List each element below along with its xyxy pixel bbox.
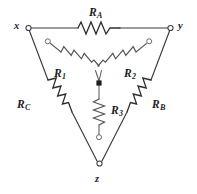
wire-terminal1-to-R1 bbox=[51, 44, 62, 53]
resistor-label-R1-base: R bbox=[54, 67, 62, 79]
resistor-label-R2-sub: 2 bbox=[132, 72, 136, 81]
resistor-label-RA: RA bbox=[89, 7, 102, 20]
center-junction-node bbox=[96, 80, 101, 85]
wire-RC-to-z bbox=[72, 112, 97, 161]
terminal-node-x[interactable] bbox=[26, 25, 31, 30]
resistor-label-R3-base: R bbox=[111, 104, 119, 116]
circuit-schematic-canvas bbox=[0, 0, 197, 194]
resistor-RB-zigzag bbox=[127, 78, 151, 112]
terminal-node-R1-open[interactable] bbox=[45, 39, 50, 44]
resistor-label-RB-base: R bbox=[152, 98, 160, 110]
wye-branch-R3 bbox=[94, 85, 105, 135]
terminal-node-y[interactable] bbox=[168, 25, 173, 30]
resistor-label-RB: RB bbox=[152, 99, 165, 112]
resistor-label-R1-sub: 1 bbox=[62, 72, 66, 81]
resistor-label-R3: R3 bbox=[111, 105, 123, 118]
wire-terminal2-to-R2 bbox=[136, 44, 147, 53]
node-label-z: z bbox=[95, 174, 99, 185]
resistor-label-RC: RC bbox=[17, 99, 30, 112]
terminal-node-R3-open[interactable] bbox=[97, 135, 102, 140]
resistor-RC-zigzag bbox=[48, 78, 72, 112]
wire-R1-to-center bbox=[96, 71, 100, 82]
resistor-label-RA-sub: A bbox=[97, 11, 102, 20]
terminal-node-z[interactable] bbox=[97, 161, 102, 166]
resistor-label-RC-sub: C bbox=[25, 103, 30, 112]
resistor-label-RB-sub: B bbox=[160, 103, 165, 112]
resistor-label-R2-base: R bbox=[124, 67, 132, 79]
resistor-R3-zigzag bbox=[94, 99, 105, 125]
terminal-node-R2-open[interactable] bbox=[147, 39, 152, 44]
resistor-RA-zigzag bbox=[78, 22, 120, 34]
resistor-label-R2: R2 bbox=[124, 68, 136, 81]
wire-y-to-RB bbox=[151, 31, 170, 80]
resistor-label-R3-sub: 3 bbox=[119, 109, 123, 118]
resistor-R2-zigzag bbox=[98, 47, 136, 66]
resistor-label-RA-base: R bbox=[89, 6, 97, 18]
circuit-diagram: RA R1 R2 R3 RC RB x y z bbox=[0, 0, 197, 194]
wire-R2-to-center bbox=[99, 71, 102, 82]
wire-x-to-RC bbox=[30, 31, 49, 80]
resistor-label-R1: R1 bbox=[54, 68, 66, 81]
delta-edge-xz bbox=[30, 31, 98, 161]
wire-RB-to-z bbox=[102, 112, 127, 161]
delta-edge-xy bbox=[31, 22, 168, 34]
wye-branch-R2 bbox=[98, 44, 147, 82]
node-label-y: y bbox=[178, 21, 183, 32]
resistor-R1-zigzag bbox=[61, 47, 99, 66]
resistor-label-RC-base: R bbox=[17, 98, 25, 110]
node-label-x: x bbox=[14, 21, 19, 32]
